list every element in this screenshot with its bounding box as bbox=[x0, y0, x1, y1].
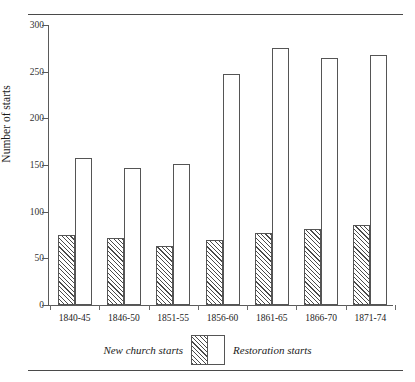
bar-group bbox=[304, 25, 338, 305]
x-axis-tick bbox=[296, 305, 297, 310]
bar-group bbox=[107, 25, 141, 305]
y-axis-tick bbox=[42, 118, 48, 119]
bar-restoration-starts bbox=[173, 164, 190, 305]
y-axis-tick-labels: 050100150200250300 bbox=[0, 25, 44, 305]
bar-group bbox=[353, 25, 387, 305]
legend-swatch-open bbox=[208, 335, 225, 365]
bar-restoration-starts bbox=[321, 58, 338, 305]
chart-figure: Number of starts 050100150200250300 1840… bbox=[0, 0, 415, 382]
bottom-divider-rule bbox=[28, 370, 403, 371]
bar-restoration-starts bbox=[223, 74, 240, 305]
y-axis-tick bbox=[42, 25, 48, 26]
plot-area: 1840-451846-501851-551856-601861-651866-… bbox=[48, 25, 398, 305]
bar-restoration-starts bbox=[75, 158, 92, 305]
legend-label-restoration-starts: Restoration starts bbox=[233, 344, 312, 356]
bar-restoration-starts bbox=[370, 55, 387, 305]
x-axis-tick bbox=[99, 305, 100, 310]
x-axis-tick bbox=[247, 305, 248, 310]
x-axis-tick bbox=[198, 305, 199, 310]
bar-restoration-starts bbox=[272, 48, 289, 305]
bar-group bbox=[156, 25, 190, 305]
bar-new-church-starts bbox=[58, 235, 75, 305]
bar-group bbox=[255, 25, 289, 305]
bar-new-church-starts bbox=[255, 233, 272, 305]
y-axis-tick bbox=[42, 72, 48, 73]
y-axis-tick bbox=[42, 305, 48, 306]
legend-label-new-church-starts: New church starts bbox=[103, 344, 183, 356]
y-axis-tick bbox=[42, 258, 48, 259]
x-axis-tick bbox=[50, 305, 51, 310]
bar-new-church-starts bbox=[107, 238, 124, 305]
y-axis-tick bbox=[42, 212, 48, 213]
x-axis-tick bbox=[346, 305, 347, 310]
y-axis-line bbox=[48, 25, 49, 305]
x-axis-label: 1871-74 bbox=[340, 313, 400, 323]
bar-new-church-starts bbox=[206, 240, 223, 305]
bar-new-church-starts bbox=[353, 225, 370, 305]
bar-group bbox=[58, 25, 92, 305]
legend-swatch-hatched bbox=[191, 335, 208, 365]
chart-legend: New church starts Restoration starts bbox=[0, 333, 415, 367]
bar-new-church-starts bbox=[304, 229, 321, 305]
bar-new-church-starts bbox=[156, 246, 173, 305]
x-axis-tick bbox=[395, 305, 396, 310]
x-axis-tick bbox=[149, 305, 150, 310]
bar-restoration-starts bbox=[124, 168, 141, 305]
bar-group bbox=[206, 25, 240, 305]
y-axis-tick bbox=[42, 165, 48, 166]
top-divider-rule bbox=[28, 14, 403, 15]
legend-swatch-group bbox=[191, 335, 225, 365]
